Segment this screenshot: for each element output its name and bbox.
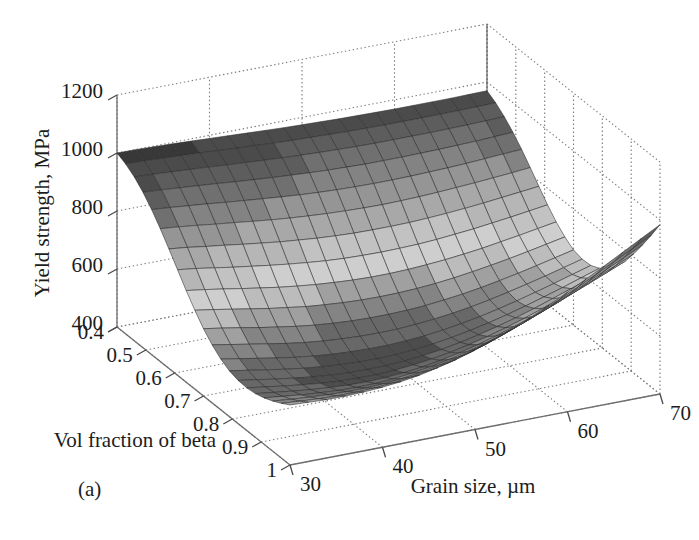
y-tick-0.5: 0.5	[107, 343, 133, 367]
y-tick-0.9: 0.9	[222, 435, 248, 459]
z-tick-1200: 1200	[61, 79, 103, 103]
y-tick-0.7: 0.7	[164, 389, 190, 413]
z-tick-600: 600	[72, 253, 104, 277]
x-tick-60: 60	[578, 419, 599, 443]
surface-plot-3d: 400600800100012000.40.50.60.70.80.913040…	[0, 0, 699, 540]
figure-panel: 400600800100012000.40.50.60.70.80.913040…	[0, 0, 699, 540]
mesh-surface	[117, 91, 660, 405]
y-tick-1: 1	[267, 458, 278, 482]
z-tick-1000: 1000	[61, 137, 103, 161]
y-axis-title: Vol fraction of beta	[54, 428, 217, 452]
x-tick-50: 50	[485, 437, 506, 461]
y-tick-0.4: 0.4	[78, 320, 105, 344]
z-axis-title: Yield strength, MPa	[30, 128, 54, 297]
panel-label: (a)	[78, 477, 101, 501]
x-tick-70: 70	[670, 401, 691, 425]
y-tick-0.6: 0.6	[135, 366, 161, 390]
x-tick-30: 30	[300, 472, 321, 496]
z-tick-800: 800	[72, 195, 104, 219]
x-axis-title: Grain size, µm	[411, 474, 536, 498]
